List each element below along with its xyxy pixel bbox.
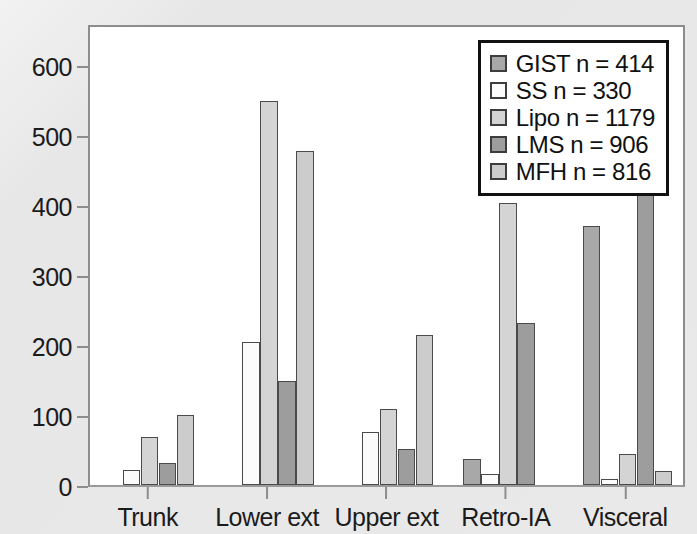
bar <box>619 454 637 486</box>
y-tick-label: 400 <box>32 193 72 222</box>
y-tick-label: 300 <box>32 263 72 292</box>
legend-label: SS n = 330 <box>516 77 631 105</box>
legend-item: MFH n = 816 <box>490 158 655 185</box>
y-tick-mark <box>77 66 88 68</box>
x-tick-label: Upper ext <box>335 503 439 532</box>
legend-swatch-icon <box>490 55 507 72</box>
plot-frame: GIST n = 414SS n = 330Lipo n = 1179LMS n… <box>88 25 685 487</box>
y-tick-mark <box>77 346 88 348</box>
legend-item: Lipo n = 1179 <box>490 104 655 131</box>
x-tick-label: Lower ext <box>215 503 319 532</box>
bar <box>601 479 619 485</box>
x-tick-mark <box>505 487 507 499</box>
legend-label: LMS n = 906 <box>516 131 648 159</box>
x-axis: TrunkLower extUpper extRetro-IAVisceral <box>88 487 685 534</box>
y-tick-label: 0 <box>59 473 72 502</box>
y-tick-label: 200 <box>32 333 72 362</box>
x-tick-mark <box>266 487 268 499</box>
x-tick-label: Visceral <box>583 503 667 532</box>
x-axis-group: Upper ext <box>335 487 439 532</box>
x-tick-mark <box>385 487 387 499</box>
legend-swatch-icon <box>490 109 507 126</box>
legend-swatch-icon <box>490 163 507 180</box>
y-tick-mark <box>77 206 88 208</box>
y-tick-mark <box>77 486 88 488</box>
y-tick-mark <box>77 136 88 138</box>
x-tick-mark <box>147 487 149 499</box>
y-tick-label: 600 <box>32 53 72 82</box>
legend-label: Lipo n = 1179 <box>516 104 655 132</box>
legend-item: LMS n = 906 <box>490 131 655 158</box>
x-axis-group: Retro-IA <box>461 487 550 532</box>
x-tick-label: Trunk <box>117 503 177 532</box>
x-tick-mark <box>624 487 626 499</box>
x-axis-group: Lower ext <box>215 487 319 532</box>
bar <box>637 185 655 485</box>
y-tick-label: 500 <box>32 123 72 152</box>
y-axis: 0100200300400500600 <box>0 25 88 487</box>
x-tick-label: Retro-IA <box>461 503 550 532</box>
legend-swatch-icon <box>490 136 507 153</box>
legend-label: GIST n = 414 <box>516 50 654 78</box>
legend-item: GIST n = 414 <box>490 50 655 77</box>
x-axis-group: Trunk <box>117 487 177 532</box>
legend-swatch-icon <box>490 82 507 99</box>
legend-label: MFH n = 816 <box>516 158 651 186</box>
y-tick-label: 100 <box>32 403 72 432</box>
y-tick-mark <box>77 416 88 418</box>
chart-legend: GIST n = 414SS n = 330Lipo n = 1179LMS n… <box>478 40 669 196</box>
legend-item: SS n = 330 <box>490 77 655 104</box>
bar <box>583 226 601 485</box>
y-tick-mark <box>77 276 88 278</box>
bar <box>655 471 673 485</box>
figure-container: 0100200300400500600 GIST n = 414SS n = 3… <box>0 0 697 534</box>
x-axis-group: Visceral <box>583 487 667 532</box>
